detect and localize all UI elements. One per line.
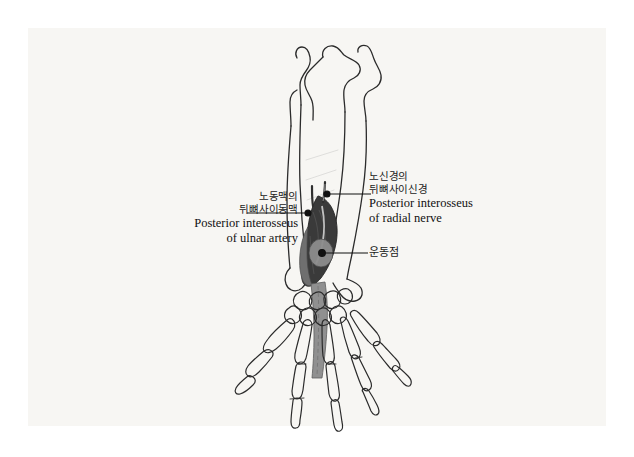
label-motor-point-korean-line1: 운동점 — [369, 246, 449, 259]
ring-proximal-phalanx — [351, 355, 371, 391]
thumb-distal-phalanx — [235, 376, 255, 395]
label-radial-nerve-english-line1: Posterior interosseus — [369, 196, 529, 211]
leader-dot-radial-nerve — [324, 191, 330, 197]
carpal-trapezium — [285, 306, 302, 324]
label-ulnar-artery-korean-line1: 노동맥의 — [150, 190, 298, 203]
ring-metacarpal — [340, 317, 360, 359]
middle-middle-phalanx — [331, 400, 343, 432]
label-radial-nerve-english-line2: of radial nerve — [369, 211, 529, 226]
radial-head-outline — [358, 45, 381, 121]
index-middle-phalanx — [291, 398, 302, 428]
leader-dot-ulnar-artery — [305, 210, 311, 216]
label-motor-point: 운동점 — [369, 246, 449, 259]
little-proximal-phalanx — [373, 342, 400, 372]
index-metacarpal — [295, 320, 312, 364]
coronoid-outline — [296, 47, 310, 105]
label-ulnar-artery-english-line1: Posterior interosseus — [150, 216, 298, 231]
leader-dot-motor-point — [319, 250, 326, 257]
posterior-interosseous-artery-strand — [312, 186, 313, 206]
label-ulnar-artery-english-line2: of ulnar artery — [150, 231, 298, 246]
label-radial-nerve-korean-line1: 노신경의 — [369, 170, 529, 183]
ring-middle-phalanx — [362, 388, 379, 415]
middle-proximal-phalanx — [326, 362, 339, 401]
index-proximal-phalanx — [292, 362, 306, 399]
thumb-metacarpal — [263, 319, 295, 353]
label-ulnar-artery-korean-line2: 뒤뼈사이동맥 — [150, 203, 298, 216]
carpal-hamate — [329, 306, 346, 324]
label-posterior-interosseous-radial-nerve: 노신경의 뒤뼈사이신경 Posterior interosseus of rad… — [369, 170, 529, 225]
little-metacarpal — [350, 311, 380, 346]
anatomy-figure — [0, 0, 634, 457]
label-posterior-interosseous-ulnar-artery: 노동맥의 뒤뼈사이동맥 Posterior interosseus of uln… — [150, 190, 298, 245]
label-radial-nerve-korean-line2: 뒤뼈사이신경 — [369, 183, 529, 196]
radius-shaft-right-border — [347, 121, 366, 279]
thumb-proximal-phalanx — [246, 350, 273, 377]
page-root: 노동맥의 뒤뼈사이동맥 Posterior interosseus of uln… — [0, 0, 634, 457]
little-distal-phalanx — [392, 366, 411, 387]
olecranon-outline — [323, 46, 361, 112]
